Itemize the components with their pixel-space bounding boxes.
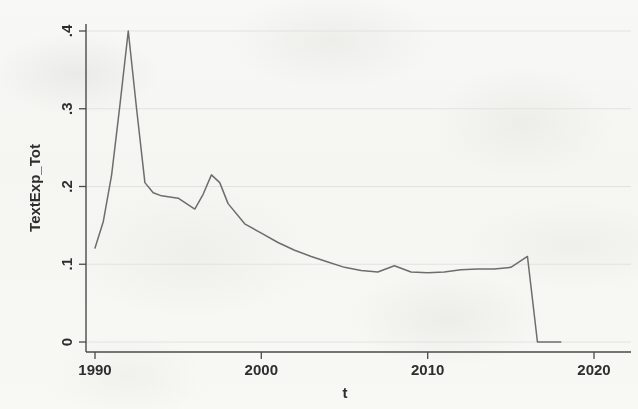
chart-figure: .4 .3 .2 .1 0 TextExp_Tot 1990 2000 2010…: [0, 0, 638, 409]
x-tick-label-2020: 2020: [577, 361, 610, 378]
gridlines: [86, 31, 631, 342]
x-axis: 1990 2000 2010 2020 t: [78, 352, 631, 401]
x-tick-label-1990: 1990: [78, 361, 111, 378]
y-axis-title: TextExp_Tot: [26, 144, 43, 232]
x-tick-label-2000: 2000: [245, 361, 278, 378]
y-axis: .4 .3 .2 .1 0 TextExp_Tot: [26, 24, 86, 352]
x-axis-title: t: [343, 384, 348, 401]
y-tick-label-0.0: 0: [58, 338, 75, 346]
y-tick-label-0.3: .3: [58, 102, 75, 115]
y-tick-label-0.2: .2: [58, 180, 75, 193]
line-chart-plot: .4 .3 .2 .1 0 TextExp_Tot 1990 2000 2010…: [0, 0, 638, 409]
y-tick-label-0.4: .4: [58, 24, 75, 37]
y-tick-label-0.1: .1: [58, 258, 75, 271]
x-tick-label-2010: 2010: [411, 361, 444, 378]
